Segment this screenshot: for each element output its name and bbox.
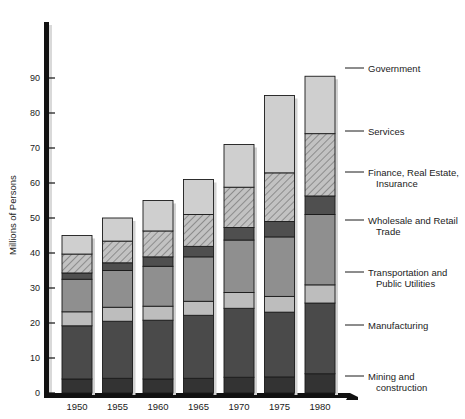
bar-segment [184, 215, 214, 247]
legend-label: Wholesale and Retail [368, 215, 458, 226]
legend-label-line2: Insurance [376, 178, 418, 189]
bar-segment [62, 326, 92, 379]
bar-segment [143, 201, 173, 231]
bar-segment [224, 308, 254, 377]
bar-segment [62, 273, 92, 279]
bar-shadow [295, 99, 298, 396]
bar-column [143, 201, 176, 396]
x-axis-year-label: 1970 [228, 401, 249, 412]
y-axis-tick-label: 30 [30, 283, 40, 293]
bar-segment [184, 246, 214, 257]
bar-column [265, 96, 298, 396]
y-axis-spine [44, 22, 49, 394]
x-axis-year-label: 1960 [147, 401, 168, 412]
bar-segment [143, 231, 173, 257]
x-axis-spine [44, 393, 350, 398]
bar-segment [184, 301, 214, 315]
x-axis-year-label: 1965 [188, 401, 209, 412]
bar-segment [305, 76, 335, 133]
bar-column [103, 218, 136, 395]
bar-segment [305, 134, 335, 196]
y-axis-title: Millions of Persons [7, 175, 18, 255]
bar-column [224, 145, 257, 396]
bar-segment [305, 196, 335, 215]
y-axis-tick-label: 60 [30, 178, 40, 188]
bar-segment [224, 240, 254, 292]
bar-segment [305, 303, 335, 374]
bar-column [184, 180, 217, 396]
bar-segment [224, 227, 254, 240]
bar-segment [62, 236, 92, 255]
y-axis-tick-label: 40 [30, 248, 40, 258]
bar-column [62, 236, 95, 396]
bar-segment [265, 296, 295, 312]
y-axis-tick-label: 20 [30, 318, 40, 328]
bar-segment [143, 266, 173, 306]
y-axis-tick-label: 90 [30, 73, 40, 83]
y-axis-tick-label: 70 [30, 143, 40, 153]
bar-segment [184, 315, 214, 378]
bar-segment [62, 379, 92, 393]
bar-segment [224, 377, 254, 393]
bar-segment [265, 312, 295, 377]
bar-segment [184, 378, 214, 393]
legend-label: Manufacturing [368, 320, 428, 331]
bar-segment [62, 279, 92, 312]
x-axis-year-label: 1955 [107, 401, 128, 412]
legend-label: Finance, Real Estate, [368, 167, 459, 178]
bar-segment [103, 241, 133, 263]
legend-label: Mining and [368, 371, 414, 382]
y-axis-tick-label: 10 [30, 353, 40, 363]
legend-label-line2: Trade [376, 226, 400, 237]
stacked-bar-chart: 0102030405060708090 19501955196019651970… [0, 0, 465, 419]
bar-column [305, 76, 338, 395]
bar-segment [143, 379, 173, 393]
bar-segment [184, 257, 214, 301]
bar-segment [103, 321, 133, 378]
bar-segment [143, 306, 173, 320]
bar-segment [305, 215, 335, 285]
bar-segment [103, 271, 133, 308]
bar-segment [265, 377, 295, 393]
bar-segment [265, 237, 295, 297]
bar-segment [103, 378, 133, 393]
chart-canvas: 0102030405060708090 19501955196019651970… [0, 0, 465, 419]
bar-segment [103, 307, 133, 321]
y-axis-shadow [49, 25, 52, 394]
bar-segment [224, 187, 254, 227]
bar-segment [62, 312, 92, 326]
y-axis-tick-label: 80 [30, 108, 40, 118]
x-axis-year-label: 1980 [309, 401, 330, 412]
legend-label-line2: construction [376, 382, 427, 393]
bar-segment [143, 320, 173, 379]
x-axis-year-label: 1950 [66, 401, 87, 412]
bar-segment [305, 374, 335, 393]
bar-segment [103, 218, 133, 241]
bar-segment [265, 222, 295, 237]
bar-segment [224, 145, 254, 188]
bar-segment [265, 173, 295, 222]
bar-segment [305, 285, 335, 303]
bar-segment [224, 293, 254, 309]
legend-label: Services [368, 126, 405, 137]
legend-label-line2: Public Utilities [376, 278, 435, 289]
bar-segment [62, 254, 92, 273]
bar-segment [265, 96, 295, 173]
legend-label: Government [368, 63, 421, 74]
y-axis-tick-label: 0 [35, 388, 40, 398]
y-axis-tick-label: 50 [30, 213, 40, 223]
bar-segment [184, 180, 214, 215]
legend-label: Transportation and [368, 267, 447, 278]
bar-segment [103, 263, 133, 271]
bar-shadow [335, 79, 338, 395]
bar-segment [143, 257, 173, 266]
x-axis-year-label: 1975 [269, 401, 290, 412]
